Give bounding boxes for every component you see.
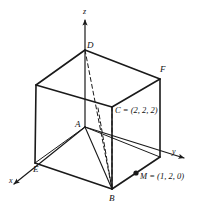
vertex-label-F: F	[160, 65, 166, 74]
cube-diagram: z y x D F A E B C = (2, 2, 2) M = (1, 2,…	[0, 0, 199, 210]
point-label-M: M = (1, 2, 0)	[140, 172, 184, 181]
edge-D-F	[85, 50, 160, 79]
point-marker-M	[133, 170, 138, 175]
edge-A-E	[35, 127, 85, 163]
y-axis	[85, 127, 184, 158]
dashed-D-B	[85, 50, 112, 189]
vertex-label-A: A	[75, 120, 81, 129]
z-axis-label: z	[83, 8, 86, 16]
edge-F-C	[112, 79, 160, 107]
edge-topleft-D	[36, 50, 85, 85]
edge-E-B	[35, 163, 112, 189]
dashed-interior-B	[98, 108, 112, 189]
point-label-C: C = (2, 2, 2)	[115, 106, 158, 115]
vertex-label-E: E	[33, 165, 39, 174]
edge-topleft-E	[35, 85, 36, 163]
vertex-label-D: D	[87, 41, 94, 50]
vertex-label-B: B	[109, 194, 115, 203]
x-axis-label: x	[9, 177, 13, 185]
edge-C-topleft	[36, 85, 112, 107]
y-axis-label: y	[172, 148, 176, 156]
